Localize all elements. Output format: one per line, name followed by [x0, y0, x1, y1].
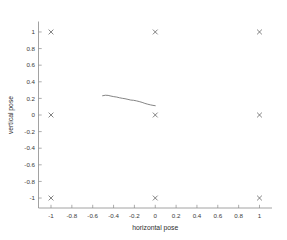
x-tick-label: 0.8 — [234, 212, 243, 219]
x-tick-label: 0.6 — [213, 212, 222, 219]
y-tick-label: 0.6 — [26, 61, 35, 68]
y-tick-label: 0.8 — [26, 45, 35, 52]
figure-canvas: -1-0.8-0.6-0.4-0.200.20.40.60.81-1-0.8-0… — [0, 0, 287, 240]
y-tick-label: -0.6 — [24, 161, 35, 168]
y-tick-label: -1 — [29, 194, 35, 201]
x-axis-title: horizontal pose — [132, 224, 178, 232]
x-tick-label: -1 — [48, 212, 54, 219]
x-tick-label: 1 — [258, 212, 262, 219]
plot-svg: -1-0.8-0.6-0.4-0.200.20.40.60.81-1-0.8-0… — [0, 0, 287, 240]
x-tick-label: -0.2 — [129, 212, 140, 219]
y-tick-label: 0.2 — [26, 95, 35, 102]
x-tick-label: 0.2 — [172, 212, 181, 219]
x-tick-label: -0.8 — [67, 212, 78, 219]
x-tick-label: -0.6 — [87, 212, 98, 219]
y-tick-label: 0.4 — [26, 78, 35, 85]
plot-background — [0, 0, 287, 240]
y-tick-label: -0.4 — [24, 144, 35, 151]
y-tick-label: 1 — [32, 28, 36, 35]
y-tick-label: -0.8 — [24, 178, 35, 185]
x-tick-label: 0 — [154, 212, 158, 219]
y-tick-label: -0.2 — [24, 128, 35, 135]
y-axis-title: vertical pose — [7, 96, 15, 134]
x-tick-label: -0.4 — [108, 212, 119, 219]
y-tick-label: 0 — [32, 111, 36, 118]
x-tick-label: 0.4 — [193, 212, 202, 219]
